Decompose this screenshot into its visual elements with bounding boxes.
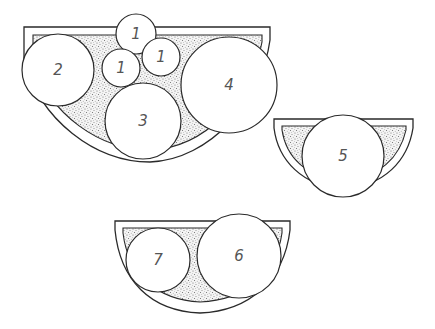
plant-label: 1: [116, 59, 126, 77]
plant-5: 5: [302, 115, 384, 197]
plant-label: 6: [234, 247, 244, 265]
small-planter-right: 5: [274, 115, 413, 197]
plant-label: 1: [131, 25, 141, 43]
planting-diagram: 1 1 1 2 3 4 5: [0, 0, 435, 329]
plant-7: 7: [126, 228, 190, 292]
plant-label: 7: [153, 251, 163, 269]
plant-label: 2: [53, 61, 63, 79]
large-planter: 1 1 1 2 3 4: [22, 14, 277, 162]
plant-1-left: 1: [102, 49, 140, 87]
plant-6: 6: [197, 214, 281, 298]
plant-4: 4: [181, 37, 277, 133]
plant-1-right: 1: [142, 38, 180, 76]
plant-label: 1: [156, 48, 166, 66]
plant-2: 2: [22, 34, 94, 106]
plant-label: 5: [338, 147, 348, 165]
plant-3: 3: [105, 83, 181, 159]
medium-planter-bottom: 7 6: [115, 214, 290, 313]
plant-label: 3: [138, 112, 148, 130]
plant-label: 4: [224, 76, 234, 94]
